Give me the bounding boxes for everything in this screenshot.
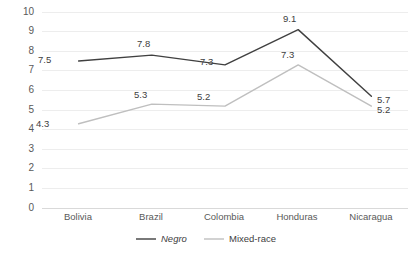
data-label-mixed-bolivia: 4.3 bbox=[36, 118, 49, 129]
line-chart: 10 9 8 7 6 5 4 3 2 1 0 7.5 7.8 7.3 9.1 5… bbox=[0, 0, 413, 253]
y-tick-5: 5 bbox=[28, 104, 34, 115]
y-tick-2: 2 bbox=[28, 162, 34, 173]
data-label-negro-bolivia: 7.5 bbox=[38, 54, 51, 65]
legend-label-negro: Negro bbox=[161, 233, 187, 244]
y-tick-7: 7 bbox=[28, 64, 34, 75]
data-label-mixed-colombia: 5.2 bbox=[197, 91, 210, 102]
series-line-mixed-race bbox=[79, 65, 372, 124]
y-tick-4: 4 bbox=[28, 123, 34, 134]
y-tick-0: 0 bbox=[28, 202, 34, 213]
data-labels-negro: 7.5 7.8 7.3 9.1 5.7 bbox=[38, 13, 390, 105]
x-tick-brazil: Brazil bbox=[139, 211, 163, 222]
x-tick-nicaragua: Nicaragua bbox=[349, 211, 393, 222]
series-line-negro bbox=[79, 30, 372, 97]
y-tick-1: 1 bbox=[28, 182, 34, 193]
data-label-mixed-brazil: 5.3 bbox=[134, 89, 147, 100]
x-tick-honduras: Honduras bbox=[276, 211, 317, 222]
data-label-negro-honduras: 9.1 bbox=[283, 13, 296, 24]
chart-legend: Negro Mixed-race bbox=[136, 233, 276, 244]
y-gridlines bbox=[42, 12, 408, 208]
y-tick-6: 6 bbox=[28, 84, 34, 95]
chart-canvas: 10 9 8 7 6 5 4 3 2 1 0 7.5 7.8 7.3 9.1 5… bbox=[0, 0, 413, 253]
x-tick-colombia: Colombia bbox=[204, 211, 245, 222]
x-tick-bolivia: Bolivia bbox=[64, 211, 93, 222]
legend-label-mixed-race: Mixed-race bbox=[229, 233, 276, 244]
y-tick-10: 10 bbox=[23, 6, 35, 17]
data-label-mixed-honduras: 7.3 bbox=[281, 49, 294, 60]
data-label-negro-colombia: 7.3 bbox=[200, 56, 213, 67]
data-label-negro-brazil: 7.8 bbox=[137, 38, 150, 49]
y-axis-labels: 10 9 8 7 6 5 4 3 2 1 0 bbox=[23, 6, 35, 213]
data-label-mixed-nicaragua: 5.2 bbox=[377, 104, 390, 115]
y-tick-8: 8 bbox=[28, 45, 34, 56]
y-tick-3: 3 bbox=[28, 143, 34, 154]
x-axis-labels: Bolivia Brazil Colombia Honduras Nicarag… bbox=[64, 211, 393, 222]
y-tick-9: 9 bbox=[28, 25, 34, 36]
